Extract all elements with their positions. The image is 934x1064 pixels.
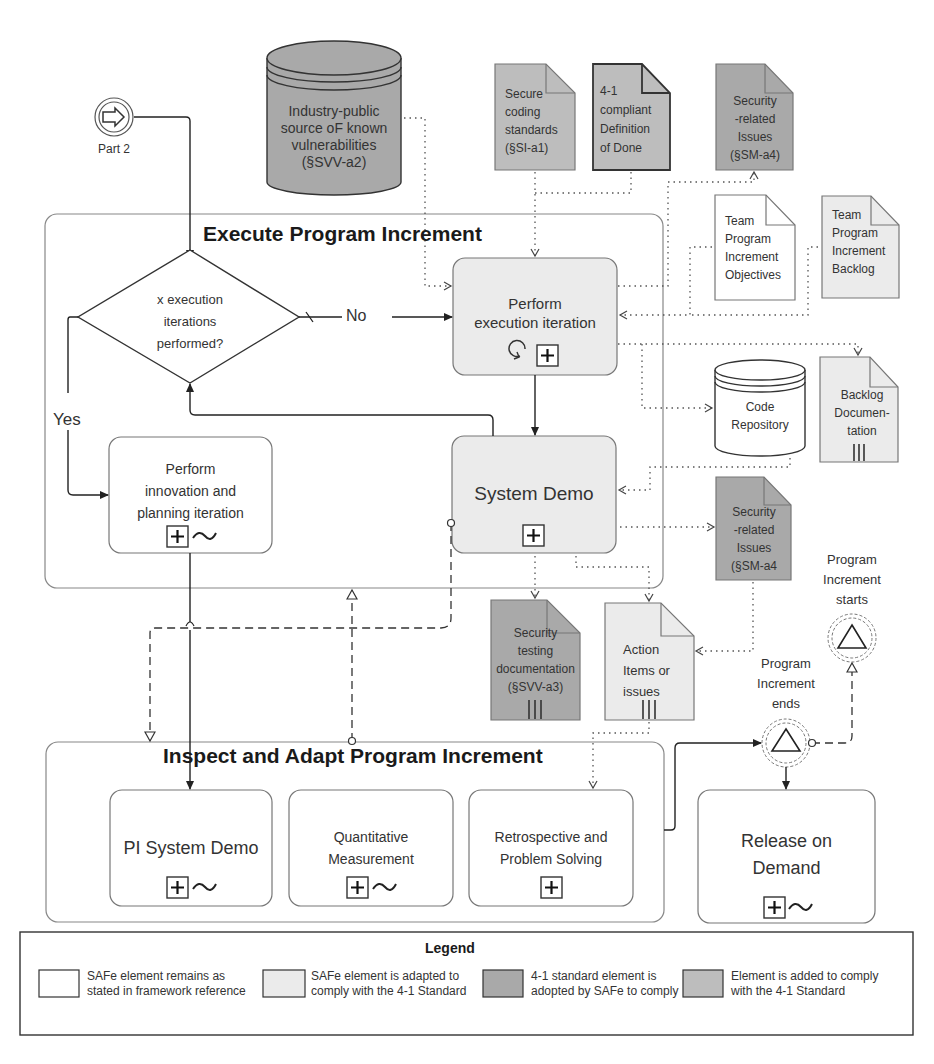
start-event-label: Part 2	[84, 141, 144, 157]
legend-swatch-added	[683, 970, 723, 997]
quantitative-measurement-label: Quantitative Measurement	[289, 826, 453, 870]
inspect-pool-title: Inspect and Adapt Program Increment	[163, 744, 543, 768]
industry-source-label: Industry-public source oF known vulnerab…	[270, 103, 398, 171]
assoc-dod-to-exec	[535, 172, 631, 193]
legend-title: Legend	[425, 940, 475, 956]
flow-yes-label: Yes	[53, 410, 81, 430]
assoc-exec-to-backlog-doc	[618, 344, 858, 355]
innovation-planning-label: Perform innovation and planning iteratio…	[109, 458, 272, 524]
event-pi-ends[interactable]	[762, 719, 810, 767]
team-pi-backlog-label: Team Program Increment Backlog	[832, 206, 907, 278]
secure-coding-label: Secure coding standards (§SI-a1)	[505, 85, 575, 157]
assoc-objectives-to-exec	[620, 247, 712, 315]
team-pi-objectives-label: Team Program Increment Objectives	[725, 212, 800, 284]
security-issues-mid-label: Security -related Issues (§SM-a4	[716, 503, 792, 575]
legend-swatch-unchanged	[39, 970, 79, 997]
code-repository-label: Code Repository	[715, 398, 805, 434]
event-pi-starts[interactable]	[828, 614, 876, 662]
gateway-label: x execution iterations performed?	[130, 289, 250, 355]
legend-text-adapted: SAFe element is adapted to comply with t…	[311, 969, 471, 999]
perform-execution-label: Perform execution iteration	[453, 294, 617, 332]
execute-pool-title: Execute Program Increment	[203, 222, 482, 246]
legend-text-adopted: 4-1 standard element is adopted by SAFe …	[531, 969, 681, 999]
flow-yes	[68, 317, 108, 495]
pi-system-demo-label: PI System Demo	[110, 836, 272, 860]
system-demo-label: System Demo	[452, 482, 616, 506]
assoc-security-issues-to-action	[696, 582, 753, 651]
flow-demo-to-gateway	[190, 384, 493, 436]
retrospective-label: Retrospective and Problem Solving	[469, 826, 633, 870]
assoc-demo-to-action-items	[576, 556, 649, 601]
assoc-industry-to-exec	[404, 118, 451, 286]
action-items-label: Action Items or issues	[623, 639, 693, 702]
backlog-documentation-label: Backlog Documen- tation	[826, 386, 898, 440]
security-testing-label: Security testing documentation (§SVV-a3)	[488, 624, 583, 696]
pi-starts-label: Program Increment starts	[810, 550, 894, 610]
message-demo-to-inspect	[150, 523, 451, 741]
assoc-action-to-retro	[593, 722, 649, 788]
release-on-demand-label: Release on Demand	[698, 828, 875, 882]
dod-label: 4-1 compliant Definition of Done	[600, 82, 670, 158]
security-issues-top-label: Security -related Issues (§SM-a4)	[716, 92, 794, 164]
pi-ends-label: Program Increment ends	[746, 654, 826, 714]
legend-swatch-adapted	[263, 970, 305, 997]
legend-text-unchanged: SAFe element remains as stated in framew…	[87, 969, 252, 999]
legend-text-added: Element is added to comply with the 4-1 …	[731, 969, 881, 999]
assoc-exec-to-code-repo	[642, 344, 712, 408]
flow-no-label: No	[346, 307, 366, 325]
start-event-part2[interactable]	[95, 98, 133, 136]
legend-swatch-adopted	[483, 970, 523, 997]
flow-part2-to-gateway	[134, 117, 190, 258]
